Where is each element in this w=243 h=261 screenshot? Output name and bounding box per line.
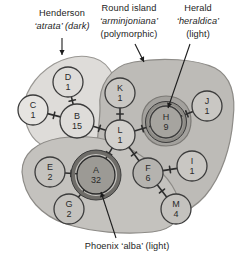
haplotype-node-A[interactable]: A32 (71, 150, 121, 200)
node-count-F: 6 (145, 173, 150, 183)
node-count-J: 1 (204, 106, 209, 116)
annotation-line-henderson-0: Henderson (39, 8, 85, 18)
annotation-line-herald-2: (light) (186, 29, 210, 39)
node-label-D: D (65, 72, 72, 82)
haplotype-node-M[interactable]: M4 (161, 194, 191, 224)
node-count-G: 2 (66, 209, 71, 219)
node-label-M: M (172, 199, 180, 209)
annotation-arrowhead-henderson (59, 50, 64, 55)
haplotype-network-figure: D1C1B15K1L1H9J1E2A32G2F6I1M4 Henderson‘a… (0, 0, 243, 261)
haplotype-node-K[interactable]: K1 (105, 78, 135, 108)
haplotype-node-C[interactable]: C1 (18, 95, 48, 125)
haplotype-node-G[interactable]: G2 (54, 194, 84, 224)
haplotype-node-B[interactable]: B15 (60, 104, 94, 138)
haplotype-node-I[interactable]: I1 (177, 151, 207, 181)
node-count-C: 1 (30, 110, 35, 120)
node-count-K: 1 (117, 93, 122, 103)
annotation-round-island: Round island‘arminjoniana’(polymorphic) (100, 3, 159, 62)
node-label-B: B (74, 111, 80, 121)
node-label-I: I (191, 156, 194, 166)
node-count-H: 9 (163, 122, 168, 132)
annotation-line-round-island-1: ‘arminjoniana’ (100, 16, 159, 26)
haplotype-node-E[interactable]: E2 (35, 157, 65, 187)
node-count-E: 2 (47, 172, 52, 182)
node-label-G: G (65, 199, 72, 209)
annotation-line-phoenix-0: Phoenix ‘alba’ (light) (85, 241, 170, 251)
node-label-A: A (93, 165, 99, 175)
haplotype-node-L[interactable]: L1 (105, 120, 135, 150)
mutation-tick-F-I-1 (169, 166, 170, 172)
annotation-line-round-island-0: Round island (102, 3, 157, 13)
node-count-I: 1 (189, 166, 194, 176)
annotation-line-herald-0: Herald (184, 3, 212, 13)
annotation-henderson: Henderson‘atrata’ (dark) (34, 8, 89, 55)
node-count-L: 1 (117, 135, 122, 145)
network-canvas: D1C1B15K1L1H9J1E2A32G2F6I1M4 Henderson‘a… (0, 0, 243, 261)
node-count-D: 1 (65, 82, 70, 92)
node-label-J: J (205, 96, 210, 106)
node-label-F: F (145, 163, 151, 173)
node-label-L: L (117, 125, 122, 135)
annotation-line-herald-1: ‘heraldica’ (177, 16, 220, 26)
annotation-line-henderson-1: ‘atrata’ (dark) (34, 21, 89, 31)
annotation-line-round-island-2: (polymorphic) (101, 29, 158, 39)
node-count-M: 4 (173, 209, 178, 219)
node-count-B: 15 (72, 121, 82, 131)
haplotype-node-D[interactable]: D1 (53, 67, 83, 97)
node-label-E: E (47, 162, 53, 172)
node-count-A: 32 (91, 175, 101, 185)
haplotype-node-H[interactable]: H9 (146, 102, 187, 143)
node-label-H: H (163, 112, 170, 122)
haplotype-node-F[interactable]: F6 (133, 158, 163, 188)
haplotype-node-J[interactable]: J1 (192, 91, 222, 121)
node-label-C: C (30, 100, 37, 110)
node-label-K: K (117, 83, 123, 93)
